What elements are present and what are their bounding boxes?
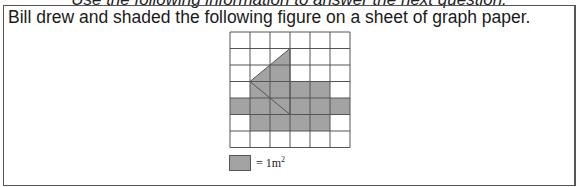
- shaded-cell: [310, 98, 330, 115]
- shaded-cell: [270, 115, 290, 132]
- shaded-cell: [250, 115, 270, 132]
- shaded-cell: [330, 98, 350, 115]
- shaded-cell: [290, 115, 310, 132]
- legend-label-text: = 1m: [256, 156, 281, 170]
- shaded-cell: [250, 98, 270, 115]
- shaded-cell: [310, 82, 330, 99]
- shaded-cell: [230, 98, 250, 115]
- shaded-cell: [290, 98, 310, 115]
- question-stem: Bill drew and shaded the following figur…: [8, 7, 530, 28]
- legend-label: = 1m2: [256, 155, 285, 171]
- legend-superscript: 2: [281, 155, 285, 164]
- shaded-cell: [290, 82, 310, 99]
- shaded-cell: [310, 115, 330, 132]
- legend-swatch: [229, 155, 251, 171]
- graph-paper-figure: [229, 31, 351, 149]
